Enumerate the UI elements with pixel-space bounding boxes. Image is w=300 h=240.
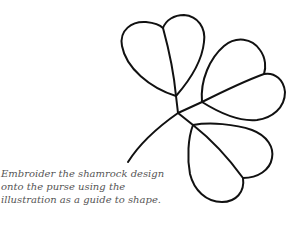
caption-line-3: illustration as a guide to shape. bbox=[1, 193, 161, 206]
caption-line-2: onto the purse using the bbox=[1, 180, 161, 193]
stem-top bbox=[176, 96, 178, 113]
bottom-leaf-vein bbox=[193, 125, 243, 178]
stem-main bbox=[128, 113, 178, 162]
instruction-caption: Embroider the shamrock design onto the p… bbox=[1, 167, 161, 206]
caption-line-1: Embroider the shamrock design bbox=[1, 167, 161, 180]
top-leaf-vein bbox=[163, 28, 176, 96]
stem-bottom bbox=[178, 113, 193, 125]
stem-right bbox=[178, 102, 202, 113]
right-leaf bbox=[202, 40, 285, 121]
right-leaf-vein bbox=[202, 74, 264, 102]
